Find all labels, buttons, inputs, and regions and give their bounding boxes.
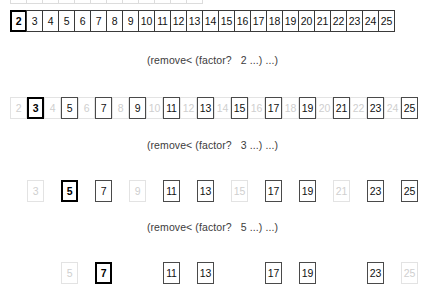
number-cell-gap	[112, 180, 129, 202]
number-cell-16: 16	[248, 97, 265, 119]
number-cell-16: 16	[234, 10, 251, 32]
number-cell-22: 22	[330, 10, 347, 32]
number-cell-7: 7	[90, 10, 107, 32]
number-cell-24: 24	[384, 97, 401, 119]
clipped-top-row: 2345678910111213	[10, 0, 203, 4]
number-cell-25: 25	[401, 180, 418, 202]
number-cell-9: 9	[129, 97, 146, 119]
number-cell-18: 18	[266, 10, 283, 32]
number-cell-11: 11	[163, 97, 180, 119]
number-cell-gap	[282, 262, 299, 284]
clipped-number-cell-8: 8	[106, 0, 123, 4]
number-row-after-3: 35791113151719212325	[27, 180, 418, 202]
number-cell-gap	[146, 262, 163, 284]
number-cell-25: 25	[401, 97, 418, 119]
number-cell-13: 13	[197, 262, 214, 284]
number-cell-11: 11	[163, 180, 180, 202]
number-cell-13: 13	[186, 10, 203, 32]
clipped-number-cell-11: 11	[154, 0, 171, 4]
clipped-number-cell-10: 10	[138, 0, 155, 4]
number-cell-gap	[78, 180, 95, 202]
number-cell-gap	[214, 180, 231, 202]
number-cell-20: 20	[298, 10, 315, 32]
number-cell-25: 25	[401, 262, 418, 284]
number-cell-3: 3	[26, 10, 43, 32]
number-cell-14: 14	[202, 10, 219, 32]
clipped-number-cell-12: 12	[170, 0, 187, 4]
number-cell-8: 8	[106, 10, 123, 32]
number-cell-7: 7	[95, 180, 112, 202]
number-cell-23: 23	[367, 180, 384, 202]
clipped-number-cell-13: 13	[186, 0, 203, 4]
number-cell-19: 19	[299, 180, 316, 202]
number-cell-2: 2	[10, 97, 27, 119]
number-cell-gap	[282, 180, 299, 202]
caption-factor-2: (remove< (factor? 2 ...) ...)	[0, 54, 425, 66]
number-cell-gap	[384, 180, 401, 202]
number-cell-5: 5	[61, 262, 78, 284]
number-cell-21: 21	[314, 10, 331, 32]
number-cell-12: 12	[180, 97, 197, 119]
number-cell-6: 6	[78, 97, 95, 119]
caption-factor-5: (remove< (factor? 5 ...) ...)	[0, 221, 425, 233]
number-cell-gap	[231, 262, 248, 284]
number-cell-8: 8	[112, 97, 129, 119]
number-cell-25: 25	[378, 10, 395, 32]
number-cell-21: 21	[333, 97, 350, 119]
number-cell-3: 3	[27, 97, 44, 119]
clipped-number-cell-5: 5	[58, 0, 75, 4]
number-cell-12: 12	[170, 10, 187, 32]
number-cell-gap	[180, 262, 197, 284]
number-cell-19: 19	[299, 97, 316, 119]
number-cell-gap	[316, 262, 333, 284]
number-cell-gap	[350, 262, 367, 284]
number-cell-18: 18	[282, 97, 299, 119]
number-cell-10: 10	[146, 97, 163, 119]
number-cell-4: 4	[42, 10, 59, 32]
number-cell-23: 23	[367, 262, 384, 284]
sieve-figure: 2345678910111213 23456789101112131415161…	[0, 0, 425, 305]
number-cell-gap	[146, 180, 163, 202]
number-cell-3: 3	[27, 180, 44, 202]
number-cell-gap	[248, 262, 265, 284]
number-cell-22: 22	[350, 97, 367, 119]
number-cell-5: 5	[61, 180, 78, 202]
number-cell-gap	[248, 180, 265, 202]
number-cell-7: 7	[95, 262, 112, 284]
clipped-number-cell-9: 9	[122, 0, 139, 4]
caption-factor-3: (remove< (factor? 3 ...) ...)	[0, 139, 425, 151]
number-cell-19: 19	[282, 10, 299, 32]
number-cell-gap	[384, 262, 401, 284]
number-cell-17: 17	[265, 180, 282, 202]
number-cell-19: 19	[299, 262, 316, 284]
number-cell-11: 11	[163, 262, 180, 284]
number-cell-gap	[180, 180, 197, 202]
number-cell-15: 15	[231, 97, 248, 119]
clipped-number-cell-7: 7	[90, 0, 107, 4]
number-cell-24: 24	[362, 10, 379, 32]
number-cell-20: 20	[316, 97, 333, 119]
number-cell-gap	[350, 180, 367, 202]
number-cell-17: 17	[265, 262, 282, 284]
clipped-number-cell-6: 6	[74, 0, 91, 4]
clipped-number-cell-2: 2	[10, 0, 27, 4]
clipped-number-cell-4: 4	[42, 0, 59, 4]
clipped-number-cell-3: 3	[26, 0, 43, 4]
number-cell-13: 13	[197, 97, 214, 119]
number-cell-gap	[44, 180, 61, 202]
number-row-after-5: 57111317192325	[61, 262, 418, 284]
number-cell-11: 11	[154, 10, 171, 32]
number-cell-9: 9	[129, 180, 146, 202]
number-cell-gap	[112, 262, 129, 284]
number-cell-gap	[214, 262, 231, 284]
number-cell-7: 7	[95, 97, 112, 119]
number-cell-gap	[78, 262, 95, 284]
number-cell-6: 6	[74, 10, 91, 32]
number-cell-2: 2	[10, 10, 27, 32]
number-row-initial: 2345678910111213141516171819202122232425	[10, 10, 395, 32]
number-cell-gap	[129, 262, 146, 284]
number-cell-4: 4	[44, 97, 61, 119]
number-cell-5: 5	[58, 10, 75, 32]
number-cell-17: 17	[250, 10, 267, 32]
number-cell-10: 10	[138, 10, 155, 32]
